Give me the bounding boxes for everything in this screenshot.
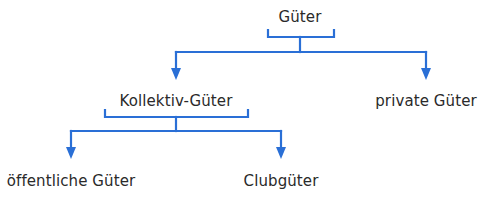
node-clubgueter: Clubgüter — [244, 172, 319, 190]
arrow-down-icon — [171, 68, 181, 80]
node-private-gueter: private Güter — [375, 92, 477, 110]
node-kollektiv-gueter: Kollektiv-Güter — [120, 92, 233, 110]
arrow-down-icon — [276, 147, 286, 159]
arrow-down-icon — [66, 147, 76, 159]
arrow-down-icon — [421, 68, 431, 80]
node-oeffentliche-gueter: öffentliche Güter — [7, 172, 136, 190]
node-gueter: Güter — [279, 8, 322, 26]
